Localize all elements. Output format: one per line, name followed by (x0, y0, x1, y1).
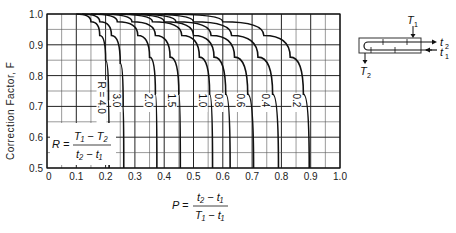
y-tick-label: 0.6 (29, 132, 43, 143)
curve-label: 0.4 (260, 93, 271, 107)
t2-outlet-arrow-icon (432, 40, 437, 45)
x-tick-label: 0.1 (69, 171, 83, 182)
x-tick-label: 0.2 (99, 171, 113, 182)
curve-label: 0.8 (213, 93, 224, 107)
r-denominator: t₂ − t₁ (76, 148, 103, 160)
r-numerator: T₁ − T₂ (74, 130, 108, 142)
t1-inlet-arrow-icon (425, 48, 430, 53)
T1-inlet-arrow-icon (411, 34, 416, 38)
y-axis-ticks: 0.50.60.70.80.91.0 (29, 9, 43, 174)
x-axis-ticks: 00.10.20.30.40.50.60.70.80.91.0 (46, 171, 347, 182)
y-axis-label: Correction Factor, F (5, 62, 16, 160)
y-tick-label: 0.8 (29, 71, 43, 82)
svg-text:1: 1 (414, 21, 418, 28)
x-tick-label: 1.0 (333, 171, 347, 182)
curve-label: 0.2 (291, 93, 302, 107)
x-tick-label: 0.8 (274, 171, 288, 182)
curve-label: R = 4.0 (96, 81, 107, 114)
p-lhs: P = (172, 199, 189, 211)
y-tick-label: 0.5 (29, 163, 43, 174)
svg-text:2: 2 (367, 72, 371, 79)
x-tick-label: 0.5 (187, 171, 201, 182)
x-tick-label: 0.9 (304, 171, 318, 182)
T2-outlet-arrow-icon (363, 60, 368, 64)
x-tick-label: 0.4 (157, 171, 171, 182)
curve-label: 2.0 (143, 93, 154, 107)
p-denominator: T₁ − t₁ (195, 209, 225, 221)
x-tick-label: 0 (46, 171, 52, 182)
curve-label: 1.0 (197, 93, 208, 107)
curve-labels: R = 4.03.02.01.51.00.80.60.40.2 (96, 80, 302, 125)
x-tick-label: 0.7 (245, 171, 259, 182)
svg-text:1: 1 (445, 53, 449, 60)
y-tick-label: 1.0 (29, 9, 43, 20)
x-axis-label: P = t₂ − t₁ T₁ − t₁ (172, 191, 228, 221)
curve-label: 0.6 (235, 93, 246, 107)
x-tick-label: 0.3 (128, 171, 142, 182)
curve-label: 1.5 (166, 93, 177, 107)
r-lhs: R = (52, 138, 70, 150)
t1-label: t (440, 46, 444, 58)
x-tick-label: 0.6 (216, 171, 230, 182)
svg-text:2: 2 (445, 43, 449, 50)
y-tick-label: 0.9 (29, 40, 43, 51)
heat-exchanger-diagram: T 1 t 2 t 1 T 2 (359, 14, 449, 79)
p-numerator: t₂ − t₁ (197, 191, 224, 203)
curve-label: 3.0 (111, 93, 122, 107)
y-tick-label: 0.7 (29, 101, 43, 112)
correction-factor-chart: R = 4.03.02.01.51.00.80.60.40.2 00.10.20… (0, 0, 456, 233)
